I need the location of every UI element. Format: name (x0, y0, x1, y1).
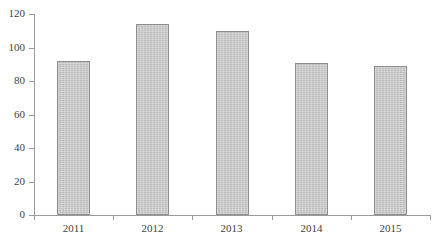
plot-area: 020406080100120 20112012201320142015 (0, 0, 445, 243)
y-axis-tick (29, 48, 34, 49)
bar-2015 (374, 66, 407, 215)
x-axis-tick-label: 2011 (34, 222, 113, 234)
x-axis-tick (192, 215, 193, 220)
bar-chart: 020406080100120 20112012201320142015 (0, 0, 445, 243)
y-axis-tick-label: 20 (0, 176, 25, 187)
x-axis-tick (351, 215, 352, 220)
bar-2012 (136, 24, 169, 215)
bar-2014 (295, 63, 328, 215)
y-axis-tick-label: 0 (0, 209, 25, 220)
x-axis-tick (113, 215, 114, 220)
bar-2011 (57, 61, 90, 215)
x-axis-tick-label: 2014 (272, 222, 351, 234)
y-axis-line (34, 14, 35, 216)
x-axis-tick-label: 2012 (113, 222, 192, 234)
x-axis-tick (430, 215, 431, 220)
y-axis-tick (29, 115, 34, 116)
y-axis-tick-label: 80 (0, 75, 25, 86)
y-axis-tick-label: 40 (0, 142, 25, 153)
bar-2013 (216, 31, 249, 215)
x-axis-line (34, 215, 430, 216)
y-axis-tick (29, 14, 34, 15)
y-axis-tick (29, 148, 34, 149)
x-axis-tick-label: 2013 (192, 222, 271, 234)
y-axis-tick-label: 120 (0, 8, 25, 19)
y-axis-tick (29, 182, 34, 183)
x-axis-tick (272, 215, 273, 220)
y-axis-tick (29, 81, 34, 82)
y-axis-tick-label: 60 (0, 109, 25, 120)
y-axis-tick-label: 100 (0, 42, 25, 53)
x-axis-tick-label: 2015 (351, 222, 430, 234)
x-axis-tick (34, 215, 35, 220)
